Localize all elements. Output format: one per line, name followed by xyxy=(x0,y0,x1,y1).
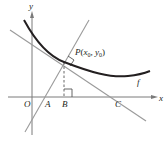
origin-label: O xyxy=(24,99,31,109)
point-p-label: P(x0, y0) xyxy=(74,47,105,58)
right-angle-marker-b xyxy=(64,89,72,97)
point-c-label: C xyxy=(115,99,122,109)
x-axis-label: x xyxy=(158,93,163,103)
y-axis-label: y xyxy=(28,1,33,11)
point-a-label: A xyxy=(44,99,51,109)
curve-f-label: f xyxy=(137,77,141,87)
paren-close: ) xyxy=(102,47,105,57)
y-axis-arrow-icon xyxy=(30,11,34,18)
tangent-normal-diagram: y x O A B C f P(x0, y0) xyxy=(0,0,167,141)
point-b-label: B xyxy=(62,99,68,109)
x-axis-arrow-icon xyxy=(151,95,158,99)
